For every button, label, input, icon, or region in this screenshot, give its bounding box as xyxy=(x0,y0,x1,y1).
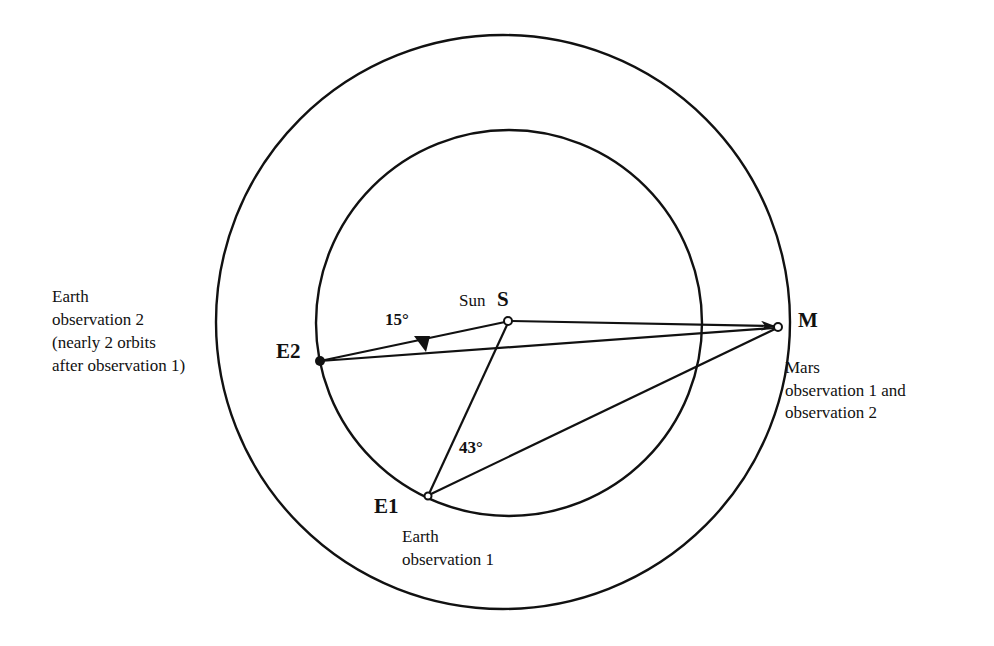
e2-letter: E2 xyxy=(276,339,301,363)
sun-label: Sun xyxy=(459,291,486,310)
line-sun-mars xyxy=(512,321,774,326)
line-e1-mars xyxy=(431,329,775,494)
e2-point xyxy=(315,356,325,366)
mars-letter: M xyxy=(798,308,818,332)
svg-text:observation 1 and: observation 1 and xyxy=(785,381,906,400)
svg-text:Earth: Earth xyxy=(402,527,439,546)
svg-text:after observation 1): after observation 1) xyxy=(52,356,185,375)
sun-point xyxy=(504,317,512,325)
angle-15-arrow xyxy=(414,336,430,352)
svg-text:Earth: Earth xyxy=(52,287,89,306)
e1-point xyxy=(425,493,432,500)
svg-text:observation 2: observation 2 xyxy=(785,403,877,422)
angle-15-label: 15° xyxy=(385,310,409,329)
orbit-diagram: Sun S M E2 E1 15° 43° Earth observation … xyxy=(0,0,994,646)
svg-text:observation 2: observation 2 xyxy=(52,310,144,329)
svg-text:observation 1: observation 1 xyxy=(402,550,494,569)
mars-point xyxy=(774,323,782,331)
e1-letter: E1 xyxy=(374,494,399,518)
mars-caption: Mars observation 1 and observation 2 xyxy=(785,358,906,422)
svg-text:Mars: Mars xyxy=(785,358,820,377)
sun-letter: S xyxy=(497,287,509,311)
earth-obs2-caption: Earth observation 2 (nearly 2 orbits aft… xyxy=(52,287,185,375)
earth-obs1-caption: Earth observation 1 xyxy=(402,527,494,569)
svg-text:(nearly 2 orbits: (nearly 2 orbits xyxy=(52,333,156,352)
line-e2-mars xyxy=(320,328,774,361)
angle-43-label: 43° xyxy=(459,438,483,457)
